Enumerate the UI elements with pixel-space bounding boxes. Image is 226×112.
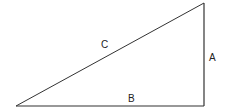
side-label-c: C: [101, 39, 108, 50]
right-triangle-diagram: C A B: [0, 0, 226, 112]
side-label-b: B: [128, 93, 135, 104]
side-label-a: A: [209, 52, 216, 63]
hypotenuse-c-line: [16, 3, 204, 106]
